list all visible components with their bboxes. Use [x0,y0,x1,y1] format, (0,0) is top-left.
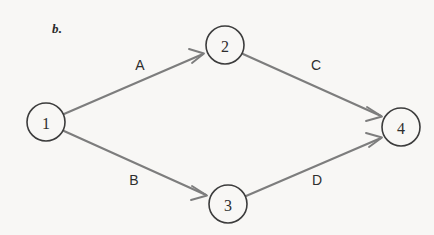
diagram-container: b. 1 [0,0,434,235]
node-1-label: 1 [42,115,50,132]
nodes-group: 1 2 3 4 [27,26,420,223]
node-4[interactable]: 4 [382,108,420,146]
edge-label-a: A [135,57,145,73]
edge-a-line [64,54,203,114]
node-4-label: 4 [397,120,405,137]
node-1[interactable]: 1 [27,103,65,141]
edge-b[interactable] [64,131,207,200]
node-3-label: 3 [224,197,232,214]
edge-a[interactable] [64,49,204,114]
edge-label-c: C [311,57,321,73]
node-2-label: 2 [221,38,229,55]
node-2[interactable]: 2 [206,26,244,64]
edges-group [64,49,382,200]
edge-b-arrowhead [191,186,207,200]
edge-label-d: D [312,172,322,188]
graph-canvas: 1 2 3 4 A B C D [0,0,434,235]
node-3[interactable]: 3 [209,185,247,223]
edge-label-b: B [129,172,138,188]
